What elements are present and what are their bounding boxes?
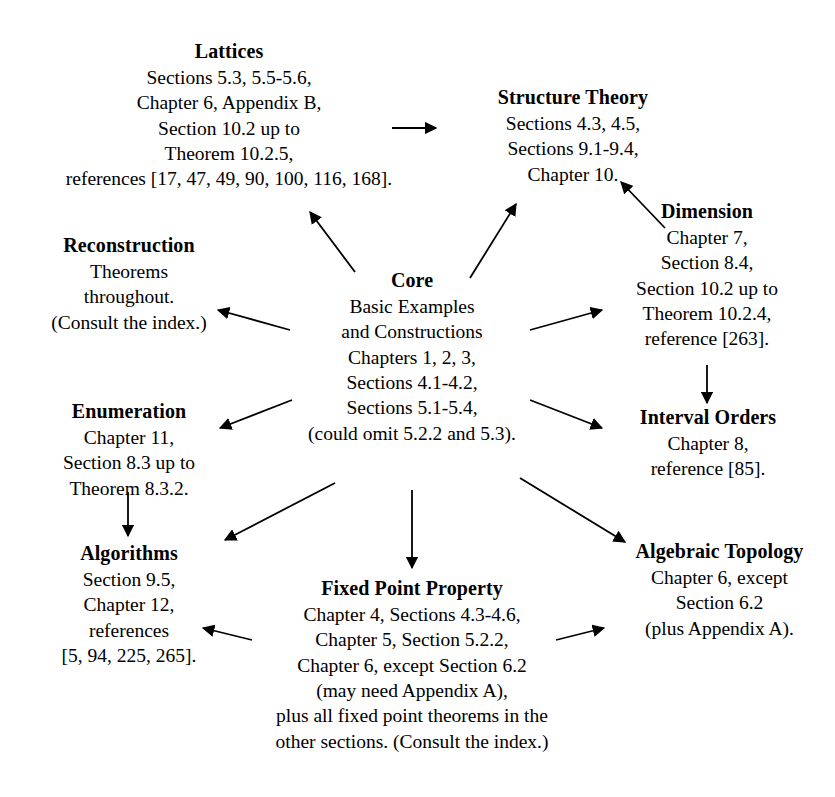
node-core-line-6: (could omit 5.2.2 and 5.3). [297, 421, 527, 446]
node-lattices-line-2: Chapter 6, Appendix B, [0, 90, 458, 115]
node-dimension-line-2: Section 8.4, [593, 250, 821, 275]
edge-core-to-lattices [310, 212, 355, 272]
node-fixed-point-property-line-3: Chapter 6, except Section 6.2 [210, 653, 614, 678]
edge-core-to-dimension [530, 310, 602, 330]
node-core-line-4: Sections 4.1-4.2, [297, 370, 527, 395]
node-lattices-line-3: Section 10.2 up to [0, 116, 458, 141]
node-structure-theory-line-3: Chapter 10. [437, 162, 709, 187]
node-interval-orders-title: Interval Orders [602, 404, 814, 431]
node-enumeration-line-3: Theorem 8.3.2. [20, 476, 238, 501]
node-algebraic-topology-line-1: Chapter 6, except [604, 565, 835, 590]
node-core: Core Basic Examples and Constructions Ch… [297, 267, 527, 446]
node-core-title: Core [297, 267, 527, 294]
node-core-line-5: Sections 5.1-5.4, [297, 395, 527, 420]
node-enumeration-line-2: Section 8.3 up to [20, 450, 238, 475]
node-reconstruction: Reconstruction Theorems throughout. (Con… [14, 232, 244, 335]
node-algebraic-topology-line-3: (plus Appendix A). [604, 616, 835, 641]
node-algorithms-title: Algorithms [20, 540, 238, 567]
node-fixed-point-property-line-4: (may need Appendix A), [210, 678, 614, 703]
node-interval-orders-line-1: Chapter 8, [602, 431, 814, 456]
node-structure-theory-line-1: Sections 4.3, 4.5, [437, 111, 709, 136]
node-lattices-line-5: references [17, 47, 49, 90, 100, 116, 16… [0, 166, 458, 191]
node-interval-orders: Interval Orders Chapter 8, reference [85… [602, 404, 814, 482]
node-core-line-3: Chapters 1, 2, 3, [297, 345, 527, 370]
node-lattices-title: Lattices [0, 38, 458, 65]
node-fixed-point-property-line-6: other sections. (Consult the index.) [210, 729, 614, 754]
node-structure-theory-title: Structure Theory [437, 84, 709, 111]
node-structure-theory: Structure Theory Sections 4.3, 4.5, Sect… [437, 84, 709, 187]
node-dimension-line-5: reference [263]. [593, 326, 821, 351]
edge-core-to-interval-orders [530, 400, 602, 428]
node-lattices-line-4: Theorem 10.2.5, [0, 141, 458, 166]
node-dimension: Dimension Chapter 7, Section 8.4, Sectio… [593, 198, 821, 352]
node-dimension-line-4: Theorem 10.2.4, [593, 301, 821, 326]
node-core-line-1: Basic Examples [297, 294, 527, 319]
node-dimension-line-1: Chapter 7, [593, 225, 821, 250]
node-algorithms-line-3: references [20, 618, 238, 643]
node-enumeration-title: Enumeration [20, 398, 238, 425]
node-fixed-point-property-title: Fixed Point Property [210, 575, 614, 602]
dependency-diagram: Lattices Sections 5.3, 5.5-5.6, Chapter … [0, 0, 835, 797]
node-reconstruction-line-1: Theorems [14, 259, 244, 284]
node-fixed-point-property-line-5: plus all fixed point theorems in the [210, 703, 614, 728]
node-algorithms: Algorithms Section 9.5, Chapter 12, refe… [20, 540, 238, 668]
node-interval-orders-line-2: reference [85]. [602, 456, 814, 481]
node-reconstruction-line-3: (Consult the index.) [14, 310, 244, 335]
node-algebraic-topology-title: Algebraic Topology [604, 538, 835, 565]
node-algorithms-line-2: Chapter 12, [20, 592, 238, 617]
node-structure-theory-line-2: Sections 9.1-9.4, [437, 136, 709, 161]
node-fixed-point-property-line-2: Chapter 5, Section 5.2.2, [210, 627, 614, 652]
node-lattices: Lattices Sections 5.3, 5.5-5.6, Chapter … [0, 38, 458, 192]
node-lattices-line-1: Sections 5.3, 5.5-5.6, [0, 65, 458, 90]
node-enumeration-line-1: Chapter 11, [20, 425, 238, 450]
node-reconstruction-line-2: throughout. [14, 284, 244, 309]
node-algebraic-topology: Algebraic Topology Chapter 6, except Sec… [604, 538, 835, 641]
node-algorithms-line-1: Section 9.5, [20, 567, 238, 592]
edge-core-to-algorithms [225, 483, 335, 540]
node-enumeration: Enumeration Chapter 11, Section 8.3 up t… [20, 398, 238, 501]
node-algebraic-topology-line-2: Section 6.2 [604, 590, 835, 615]
edge-core-to-algebraic-topology [520, 478, 625, 542]
node-core-line-2: and Constructions [297, 319, 527, 344]
node-fixed-point-property: Fixed Point Property Chapter 4, Sections… [210, 575, 614, 754]
node-algorithms-line-4: [5, 94, 225, 265]. [20, 643, 238, 668]
node-dimension-title: Dimension [593, 198, 821, 225]
node-fixed-point-property-line-1: Chapter 4, Sections 4.3-4.6, [210, 602, 614, 627]
node-dimension-line-3: Section 10.2 up to [593, 276, 821, 301]
node-reconstruction-title: Reconstruction [14, 232, 244, 259]
